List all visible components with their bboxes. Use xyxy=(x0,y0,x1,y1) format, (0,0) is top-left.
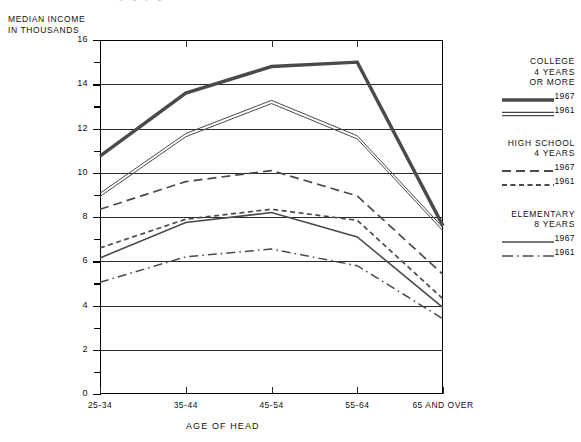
legend-entry[interactable]: 1961 xyxy=(455,247,575,258)
caption-ghost-text: y g y g xyxy=(120,0,165,1)
y-tick-label: 4 xyxy=(64,300,88,310)
x-tick-label: 45-54 xyxy=(227,400,317,410)
series-line-1-1 xyxy=(100,104,443,231)
y-axis-title: MEDIAN INCOME IN THOUSANDS xyxy=(8,14,85,36)
y-tick-label: 14 xyxy=(64,78,88,88)
legend-year-label: 1967 xyxy=(554,233,575,243)
y-tick-major xyxy=(93,394,101,395)
x-tick-label: 65 AND OVER xyxy=(398,400,488,410)
legend-line-sample xyxy=(502,105,554,115)
legend-year-label: 1967 xyxy=(554,91,575,101)
legend-line-sample xyxy=(502,162,554,172)
legend: COLLEGE 4 YEARS OR MORE19671961HIGH SCHO… xyxy=(455,56,575,280)
cropped-caption-remnant: y g y g xyxy=(0,0,581,9)
legend-swatch-long-dash xyxy=(502,166,554,176)
series-line-5 xyxy=(100,249,443,319)
x-tick-label: 35-44 xyxy=(141,400,231,410)
legend-line-sample xyxy=(502,233,554,243)
legend-entry[interactable]: 1961 xyxy=(455,105,575,116)
x-tick-label: 25-34 xyxy=(55,400,145,410)
series-line-2 xyxy=(100,171,443,275)
legend-swatch-short-dash xyxy=(502,180,554,190)
legend-year-label: 1961 xyxy=(554,247,575,257)
x-axis-title: AGE OF HEAD xyxy=(186,421,260,432)
plot-area xyxy=(100,40,443,394)
legend-line-sample xyxy=(502,247,554,257)
legend-group-title: COLLEGE 4 YEARS OR MORE xyxy=(455,56,575,88)
legend-line-sample xyxy=(502,176,554,186)
x-tick-bottom xyxy=(443,387,444,394)
series-line-0 xyxy=(100,62,443,226)
legend-group-title: ELEMENTARY 8 YEARS xyxy=(455,209,575,230)
y-tick-label: 0 xyxy=(64,388,88,398)
legend-entry[interactable]: 1967 xyxy=(455,233,575,244)
data-series-layer xyxy=(100,40,443,394)
legend-entry[interactable]: 1961 xyxy=(455,176,575,187)
y-tick-label: 12 xyxy=(64,123,88,133)
x-tick-label: 55-64 xyxy=(312,400,402,410)
legend-swatch-thin-solid xyxy=(502,237,554,247)
legend-year-label: 1961 xyxy=(554,105,575,115)
legend-swatch-dash-dot xyxy=(502,251,554,261)
legend-entry[interactable]: 1967 xyxy=(455,162,575,173)
y-tick-label: 2 xyxy=(64,344,88,354)
legend-swatch-thick-solid xyxy=(502,95,554,105)
series-line-3 xyxy=(100,209,443,299)
y-tick-label: 10 xyxy=(64,167,88,177)
chart-figure: y g y g MEDIAN INCOME IN THOUSANDS AGE O… xyxy=(0,0,581,442)
y-tick-label: 8 xyxy=(64,211,88,221)
y-tick-label: 16 xyxy=(64,34,88,44)
legend-group-2: ELEMENTARY 8 YEARS19671961 xyxy=(455,209,575,258)
y-tick-label: 6 xyxy=(64,255,88,265)
legend-line-sample xyxy=(502,91,554,101)
legend-swatch-double-line xyxy=(502,109,554,119)
legend-year-label: 1967 xyxy=(554,162,575,172)
legend-group-1: HIGH SCHOOL 4 YEARS19671961 xyxy=(455,138,575,187)
legend-group-title: HIGH SCHOOL 4 YEARS xyxy=(455,138,575,159)
legend-group-0: COLLEGE 4 YEARS OR MORE19671961 xyxy=(455,56,575,116)
legend-year-label: 1961 xyxy=(554,176,575,186)
legend-entry[interactable]: 1967 xyxy=(455,91,575,102)
